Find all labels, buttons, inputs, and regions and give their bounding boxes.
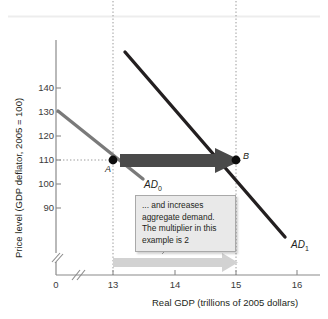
point-b-marker [232, 156, 241, 165]
ad0-curve [58, 111, 143, 179]
ad1-label-subscript: 1 [305, 245, 309, 252]
y-axis-title: Price level (GDP deflator, 2005 = 100) [14, 98, 24, 258]
y-tick-label-140: 140 [28, 83, 54, 93]
y-tick-label-110: 110 [28, 155, 54, 165]
callout-textbox: ... and increases aggregate demand. The … [135, 195, 236, 252]
x-tick-label-15: 15 [223, 280, 249, 290]
callout-line-2: aggregate demand. [142, 212, 230, 224]
point-a-label: A [105, 165, 111, 174]
ad0-curve-label: AD0 [144, 180, 162, 192]
x-tick-label-13: 13 [100, 280, 126, 290]
y-ticks [56, 88, 61, 208]
ad1-label-text: AD [291, 239, 305, 250]
y-tick-label-100: 100 [28, 179, 54, 189]
x-axis-title: Real GDP (trillions of 2005 dollars) [152, 298, 298, 308]
ad0-label-subscript: 0 [158, 185, 162, 192]
multiplier-arrow [113, 253, 238, 272]
shift-arrow [120, 148, 241, 173]
callout-line-4: example is 2 [142, 235, 230, 247]
ad0-label-text: AD [144, 179, 158, 190]
x-tick-label-14: 14 [162, 280, 188, 290]
point-b-label: B [243, 152, 249, 161]
callout-line-1: ... and increases [142, 200, 230, 212]
y-tick-label-90: 90 [28, 203, 54, 213]
y-tick-label-130: 130 [28, 107, 54, 117]
y-axis-break-icon [52, 253, 63, 263]
x-ticks [113, 270, 297, 275]
callout-line-3: The multiplier in this [142, 223, 230, 235]
y-tick-label-120: 120 [28, 131, 54, 141]
ad1-curve-label: AD1 [291, 240, 309, 252]
x-tick-label-16: 16 [284, 280, 310, 290]
x-tick-label-0: 0 [43, 280, 69, 290]
